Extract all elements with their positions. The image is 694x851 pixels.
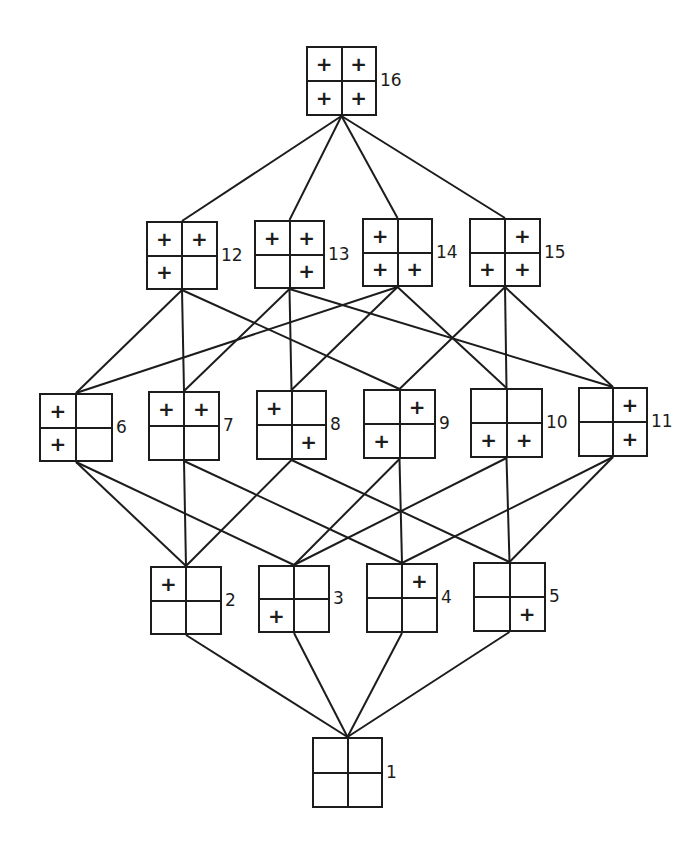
node-8: ++ [256, 390, 327, 460]
cell-tr [507, 390, 542, 423]
cell-bl [580, 422, 613, 455]
node-4: + [366, 563, 438, 633]
node-label: 9 [439, 413, 450, 433]
node-label: 14 [436, 242, 458, 262]
cell-br: + [505, 253, 539, 286]
edge-14-8 [292, 287, 398, 390]
cell-bl: + [260, 599, 294, 631]
cell-tl [314, 739, 348, 773]
edge-15-11 [505, 287, 613, 387]
cell-bl: + [41, 428, 76, 461]
cell-tl: + [256, 222, 290, 255]
edge-6-2 [76, 462, 186, 566]
cell-br: + [510, 597, 545, 630]
cell-tr [294, 567, 328, 599]
cell-tl: + [152, 568, 186, 601]
cell-tr: + [184, 393, 218, 426]
cell-bl [150, 426, 184, 459]
edge-13-8 [290, 289, 292, 390]
cell-br: + [507, 423, 542, 456]
node-label: 4 [441, 587, 452, 607]
cell-tr: + [182, 223, 216, 256]
cell-tr [510, 564, 545, 597]
node-14: +++ [362, 218, 433, 287]
cell-tr [186, 568, 220, 601]
cell-tr: + [342, 48, 376, 81]
cell-br [402, 598, 436, 631]
edge-16-15 [342, 116, 506, 218]
edge-7-2 [184, 461, 186, 566]
node-15: +++ [469, 218, 541, 287]
cell-bl: + [365, 424, 400, 457]
node-label: 15 [544, 242, 566, 262]
node-2: + [150, 566, 222, 635]
edge-8-2 [186, 460, 292, 566]
cell-br [186, 601, 220, 634]
node-label: 16 [380, 70, 402, 90]
lattice-diagram: ++++16+++12+++13+++14+++15++6++7++8++9++… [0, 0, 694, 851]
cell-bl: + [148, 256, 182, 289]
cell-tr: + [290, 222, 324, 255]
cell-bl: + [472, 423, 507, 456]
cell-tr [76, 395, 111, 428]
node-13: +++ [254, 220, 325, 289]
node-label: 3 [333, 588, 344, 608]
edge-12-6 [76, 290, 182, 393]
edge-15-10 [505, 287, 507, 388]
cell-tl: + [150, 393, 184, 426]
cell-bl: + [471, 253, 505, 286]
cell-tl [475, 564, 510, 597]
cell-br: + [398, 253, 432, 286]
cell-tl: + [308, 48, 342, 81]
cell-tl [472, 390, 507, 423]
cell-bl: + [308, 81, 342, 114]
node-12: +++ [146, 221, 218, 290]
cell-tr [398, 220, 432, 253]
node-label: 11 [651, 411, 673, 431]
edge-16-12 [182, 116, 342, 221]
node-11: ++ [578, 387, 648, 457]
edge-5-1 [348, 632, 510, 737]
cell-tl: + [41, 395, 76, 428]
cell-tl [260, 567, 294, 599]
cell-tl [471, 220, 505, 253]
cell-br [182, 256, 216, 289]
cell-bl [152, 601, 186, 634]
edge-12-7 [182, 290, 184, 391]
cell-br [400, 424, 435, 457]
node-label: 1 [386, 762, 397, 782]
node-label: 7 [223, 415, 234, 435]
node-label: 8 [330, 414, 341, 434]
node-3: + [258, 565, 330, 633]
cell-tl: + [148, 223, 182, 256]
node-label: 13 [328, 244, 350, 264]
cell-bl [258, 425, 292, 458]
edge-16-13 [290, 116, 342, 220]
node-16: ++++ [306, 46, 377, 116]
cell-tr: + [402, 565, 436, 598]
cell-br [294, 599, 328, 631]
edge-9-3 [294, 459, 400, 565]
cell-tr: + [505, 220, 539, 253]
cell-br [76, 428, 111, 461]
node-label: 5 [549, 586, 560, 606]
cell-tl: + [364, 220, 398, 253]
cell-br: + [290, 255, 324, 288]
cell-bl: + [364, 253, 398, 286]
cell-bl [475, 597, 510, 630]
cell-br: + [342, 81, 376, 114]
edge-14-6 [76, 287, 398, 393]
edge-4-1 [348, 633, 403, 737]
cell-br [348, 773, 382, 807]
node-5: + [473, 562, 546, 632]
cell-tr [292, 392, 326, 425]
node-label: 12 [221, 245, 243, 265]
cell-tr: + [400, 391, 435, 424]
cell-tl [368, 565, 402, 598]
node-1 [312, 737, 383, 808]
cell-br: + [292, 425, 326, 458]
cell-bl [256, 255, 290, 288]
node-label: 6 [116, 417, 127, 437]
edge-3-1 [294, 633, 348, 737]
cell-tl [580, 389, 613, 422]
